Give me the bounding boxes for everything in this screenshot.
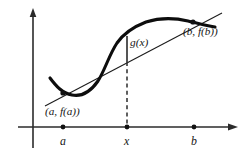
label-gap-function: g(x) [130,36,149,49]
label-tick-b: b [191,134,197,148]
axis-dot-x [125,125,130,130]
y-axis-arrow-icon [30,8,37,17]
label-tick-a: a [60,134,66,148]
point-b-fb-marker [190,19,195,24]
figure-container: (a, f(a)) (b, f(b)) g(x) a x b [0,0,244,152]
point-a-fa-marker [60,90,65,95]
label-point-a: (a, f(a)) [45,105,80,118]
label-tick-x: x [123,134,130,148]
axis-dot-b [192,125,197,130]
mean-value-theorem-figure: (a, f(a)) (b, f(b)) g(x) a x b [0,0,244,152]
x-axis-arrow-icon [228,123,238,130]
axis-dot-a [61,125,66,130]
label-point-b: (b, f(b)) [183,25,218,38]
